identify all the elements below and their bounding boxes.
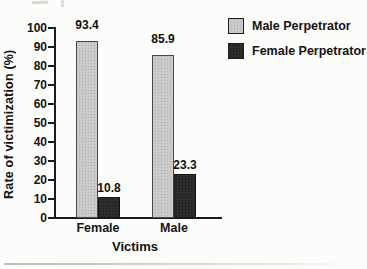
bar-chart-figure: 010203040506070809010093.485.910.823.3 R… [0, 0, 367, 269]
y-tick-mark [48, 27, 55, 29]
y-tick-label: 50 [15, 116, 47, 130]
y-axis-title: Rate of victimization (%) [0, 28, 18, 220]
y-tick-label: 0 [15, 211, 47, 225]
y-tick-label: 100 [15, 21, 47, 35]
bar-value-label: 85.9 [147, 33, 179, 46]
y-tick-mark [48, 103, 55, 105]
scan-artifact [4, 263, 348, 265]
y-tick-mark [48, 65, 55, 67]
y-tick-label: 40 [15, 135, 47, 149]
legend-label-female-perpetrator: Female Perpetrator [252, 44, 366, 58]
y-tick-mark [48, 217, 55, 219]
y-tick-mark [48, 179, 55, 181]
legend-swatch-male-perpetrator [228, 18, 244, 34]
scan-artifact [32, 1, 48, 5]
bar-male-male-perpetrator [152, 55, 174, 218]
legend-row-female-perpetrator: Female Perpetrator [228, 43, 366, 59]
bar-value-label: 93.4 [71, 19, 103, 32]
x-category-label-male: Male [142, 221, 206, 235]
y-tick-label: 80 [15, 59, 47, 73]
y-tick-label: 30 [15, 154, 47, 168]
legend-row-male-perpetrator: Male Perpetrator [228, 18, 366, 34]
y-tick-label: 10 [15, 192, 47, 206]
y-tick-mark [48, 46, 55, 48]
y-tick-label: 20 [15, 173, 47, 187]
scan-artifact [61, 0, 64, 7]
y-tick-mark [48, 160, 55, 162]
y-tick-mark [48, 141, 55, 143]
y-tick-label: 90 [15, 40, 47, 54]
bar-value-label: 23.3 [169, 159, 201, 172]
y-tick-label: 60 [15, 97, 47, 111]
bar-value-label: 10.8 [93, 182, 125, 195]
x-category-label-female: Female [66, 221, 130, 235]
y-tick-mark [48, 122, 55, 124]
legend: Male Perpetrator Female Perpetrator [228, 18, 366, 68]
y-tick-label: 70 [15, 78, 47, 92]
legend-swatch-female-perpetrator [228, 43, 244, 59]
bar-female-female-perpetrator [98, 197, 120, 218]
legend-label-male-perpetrator: Male Perpetrator [252, 19, 351, 33]
x-axis-title: Victims [85, 239, 185, 254]
y-tick-mark [48, 198, 55, 200]
bar-male-female-perpetrator [174, 174, 196, 218]
y-tick-mark [48, 84, 55, 86]
